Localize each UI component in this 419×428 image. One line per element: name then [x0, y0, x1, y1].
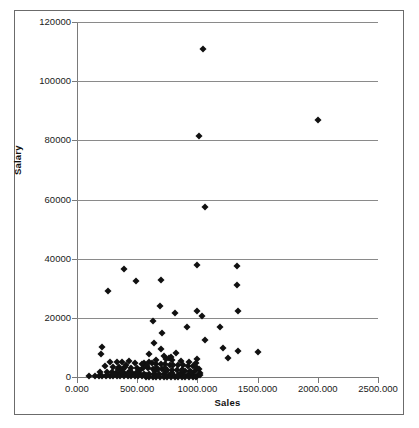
y-tick-label: 40000 — [15, 254, 71, 264]
gridline-y — [77, 200, 378, 201]
y-tick-label: 100000 — [15, 76, 71, 86]
y-tick-label: 60000 — [15, 195, 71, 205]
y-tick-label: 20000 — [15, 313, 71, 323]
gridline-y — [77, 81, 378, 82]
y-tick-mark — [72, 318, 77, 319]
gridline-y — [77, 140, 378, 141]
y-tick-mark — [72, 140, 77, 141]
x-tick-label: 1500.000 — [228, 384, 288, 394]
y-tick-mark — [72, 22, 77, 23]
x-axis-title: Sales — [77, 397, 378, 408]
gridline-y — [77, 22, 378, 23]
y-tick-mark — [72, 259, 77, 260]
y-axis-title: Salary — [12, 145, 23, 175]
x-tick-label: 2000.000 — [288, 384, 348, 394]
y-tick-label: 80000 — [15, 135, 71, 145]
y-tick-label: 0 — [15, 372, 71, 382]
x-tick-label: 500.000 — [107, 384, 167, 394]
y-tick-mark — [72, 81, 77, 82]
x-tick-label: 0.000 — [47, 384, 107, 394]
gridline-y — [77, 259, 378, 260]
scatter-plot-figure: 020000400006000080000100000120000 0.0005… — [0, 0, 419, 428]
y-tick-mark — [72, 200, 77, 201]
gridline-y — [77, 318, 378, 319]
y-tick-label: 120000 — [15, 17, 71, 27]
x-tick-label: 2500.000 — [348, 384, 408, 394]
x-tick-label: 1000.000 — [167, 384, 227, 394]
